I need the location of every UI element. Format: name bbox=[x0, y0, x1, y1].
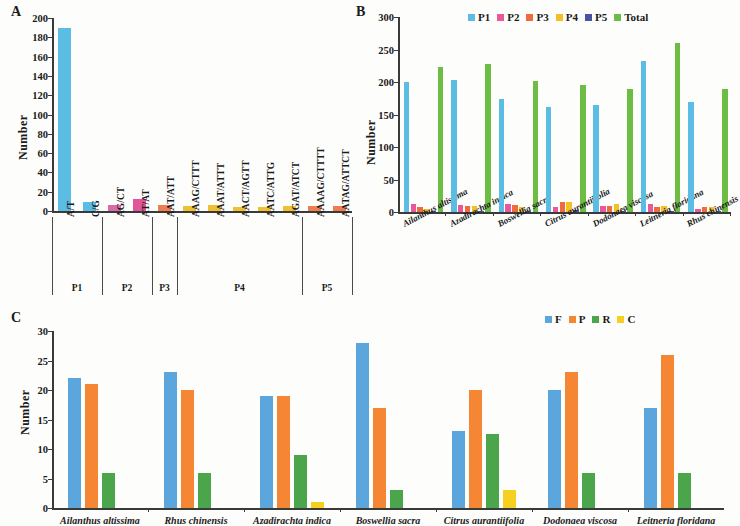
bar bbox=[411, 204, 416, 212]
x-axis-tick-label: AT/AT bbox=[141, 189, 151, 217]
bar bbox=[58, 28, 71, 211]
legend-swatch bbox=[569, 316, 576, 323]
x-axis-tick-mark bbox=[340, 508, 341, 512]
x-axis-tick-mark bbox=[540, 212, 541, 216]
x-axis-tick-mark bbox=[532, 508, 533, 512]
group-separator bbox=[152, 217, 153, 295]
x-axis-tick-mark bbox=[436, 508, 437, 512]
group-label: P5 bbox=[322, 283, 333, 293]
bar bbox=[469, 390, 482, 508]
bar bbox=[593, 105, 598, 212]
y-axis-tick-mark bbox=[394, 212, 398, 213]
legend-item: R bbox=[592, 313, 610, 325]
panel-b-y-axis-title: Number bbox=[364, 119, 379, 165]
x-axis-tick-label: AG/CT bbox=[116, 187, 126, 217]
group-separator bbox=[177, 217, 178, 295]
panel-b: B Number P1P2P3P4P5Total 050100150200250… bbox=[350, 0, 736, 310]
panel-a-letter: A bbox=[11, 4, 21, 20]
group-separator bbox=[302, 217, 303, 295]
legend-item: P bbox=[569, 313, 586, 325]
x-axis-tick-label: Boswellia sacra bbox=[356, 515, 421, 526]
x-axis-tick-label: Rhus chinensis bbox=[164, 515, 227, 526]
bar bbox=[260, 396, 273, 508]
bar bbox=[451, 80, 456, 212]
x-axis-tick-label: AAT/ATT bbox=[166, 176, 176, 217]
group-label: P2 bbox=[122, 283, 133, 293]
bar bbox=[486, 434, 499, 508]
x-axis-tick-mark bbox=[244, 508, 245, 512]
bar bbox=[678, 473, 691, 508]
y-axis-tick-label: 60 bbox=[38, 148, 49, 159]
y-axis-tick-mark bbox=[48, 420, 52, 421]
group-label: P4 bbox=[234, 283, 245, 293]
y-axis-tick-label: 15 bbox=[38, 414, 49, 425]
bar bbox=[548, 390, 561, 508]
legend-label: R bbox=[602, 313, 610, 325]
bar bbox=[580, 85, 585, 212]
bar bbox=[675, 43, 680, 212]
y-axis-tick-label: 120 bbox=[32, 90, 48, 101]
y-axis-tick-label: 25 bbox=[38, 355, 49, 366]
bar bbox=[294, 455, 307, 508]
x-axis-tick-label: Ailanthus altissima bbox=[60, 515, 140, 526]
bar bbox=[164, 372, 177, 508]
y-axis-tick-label: 10 bbox=[38, 444, 49, 455]
y-axis-tick-mark bbox=[48, 153, 52, 154]
bar bbox=[505, 204, 510, 212]
y-axis-tick-mark bbox=[48, 37, 52, 38]
bar bbox=[661, 355, 674, 508]
y-axis-tick-mark bbox=[48, 390, 52, 391]
y-axis-tick-label: 80 bbox=[38, 128, 49, 139]
panel-b-plot-area: 050100150200250300Ailanthus altissimaAza… bbox=[398, 17, 730, 212]
y-axis-tick-label: 150 bbox=[378, 109, 394, 120]
x-axis-tick-label: AAAT/ATTT bbox=[216, 163, 226, 217]
y-axis-tick-mark bbox=[394, 82, 398, 83]
x-axis-tick-label: Dodonaea viscosa bbox=[543, 515, 617, 526]
bar bbox=[644, 408, 657, 508]
y-axis-tick-label: 40 bbox=[38, 167, 49, 178]
panel-a: A Number 020406080100120140160180200A/TC… bbox=[0, 0, 368, 310]
legend-item: F bbox=[545, 313, 562, 325]
bar bbox=[356, 343, 369, 508]
y-axis-tick-mark bbox=[48, 211, 52, 212]
bar bbox=[390, 490, 403, 508]
y-axis-tick-label: 50 bbox=[384, 174, 395, 185]
bar bbox=[627, 89, 632, 213]
y-axis-tick-label: 300 bbox=[378, 12, 394, 23]
group-separator bbox=[102, 217, 103, 295]
y-axis-tick-label: 30 bbox=[38, 326, 49, 337]
panel-a-y-axis-title: Number bbox=[16, 114, 31, 160]
y-axis-tick-label: 20 bbox=[38, 186, 49, 197]
x-axis-tick-mark bbox=[628, 508, 629, 512]
y-axis-tick-mark bbox=[394, 17, 398, 18]
bar bbox=[688, 102, 693, 213]
x-axis-tick-mark bbox=[683, 212, 684, 216]
x-axis-tick-label: Citrus aurantiifolia bbox=[444, 515, 524, 526]
bar bbox=[641, 61, 646, 212]
y-axis-tick-label: 140 bbox=[32, 70, 48, 81]
bar bbox=[600, 206, 605, 213]
y-axis-tick-label: 200 bbox=[32, 13, 48, 24]
x-axis-tick-label: AACT/AGTT bbox=[241, 161, 251, 217]
legend-swatch bbox=[592, 316, 599, 323]
x-axis-tick-mark bbox=[635, 212, 636, 216]
y-axis-tick-mark bbox=[48, 76, 52, 77]
bar bbox=[546, 107, 551, 212]
y-axis-tick-label: 180 bbox=[32, 32, 48, 43]
y-axis-tick-mark bbox=[48, 508, 52, 509]
group-separator bbox=[52, 217, 53, 295]
bar bbox=[582, 473, 595, 508]
y-axis-tick-label: 20 bbox=[38, 385, 49, 396]
bar bbox=[85, 384, 98, 508]
group-label: P1 bbox=[72, 283, 83, 293]
y-axis-tick-mark bbox=[394, 180, 398, 181]
x-axis-tick-mark bbox=[148, 508, 149, 512]
bar bbox=[373, 408, 386, 508]
y-axis-tick-mark bbox=[48, 115, 52, 116]
bar bbox=[452, 431, 465, 508]
bar bbox=[648, 204, 653, 212]
y-axis-tick-label: 200 bbox=[378, 77, 394, 88]
x-axis-tick-label: Leitneria floridana bbox=[637, 515, 716, 526]
bar bbox=[68, 378, 81, 508]
y-axis-line bbox=[52, 331, 54, 508]
